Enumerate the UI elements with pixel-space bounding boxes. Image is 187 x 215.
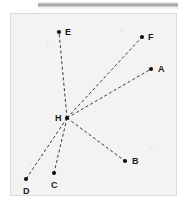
point-a: [149, 67, 153, 71]
ray-h-c: [54, 118, 67, 173]
ray-h-a: [67, 69, 151, 118]
point-c: [52, 171, 56, 175]
scan-header-bar-shadow: [38, 7, 179, 9]
point-d: [24, 177, 28, 181]
geometry-figure: ABCDEFH: [10, 13, 177, 196]
point-label-d: D: [23, 187, 30, 196]
point-f: [140, 35, 144, 39]
point-label-b: B: [132, 157, 139, 166]
point-label-h: H: [55, 114, 62, 123]
point-b: [123, 159, 127, 163]
point-label-c: C: [51, 181, 58, 190]
point-e: [57, 30, 61, 34]
point-label-a: A: [158, 65, 165, 74]
point-label-e: E: [65, 28, 71, 37]
ray-h-b: [67, 118, 125, 161]
page-root: ABCDEFH: [0, 0, 187, 215]
ray-h-f: [67, 37, 142, 118]
ray-h-d: [26, 118, 67, 179]
point-label-f: F: [148, 33, 154, 42]
ray-h-e: [59, 32, 67, 118]
point-h: [65, 116, 69, 120]
